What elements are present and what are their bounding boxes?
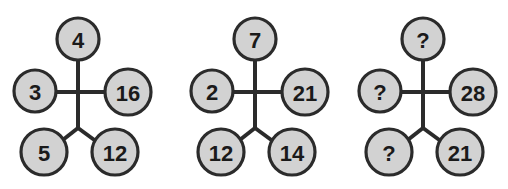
- node-bottom-left-1[interactable]: 5: [21, 129, 67, 175]
- node-bottom-right-2[interactable]: 14: [269, 129, 315, 175]
- node-left-1[interactable]: 3: [14, 70, 56, 112]
- node-label-bottom-right-3: 21: [448, 141, 472, 166]
- node-label-bottom-left-2: 12: [209, 141, 233, 166]
- node-label-right-2: 21: [293, 81, 317, 106]
- node-bottom-left-3[interactable]: ?: [366, 129, 412, 175]
- node-left-3[interactable]: ?: [359, 70, 401, 112]
- node-label-left-1: 3: [29, 80, 41, 105]
- node-right-1[interactable]: 16: [105, 69, 151, 115]
- node-bottom-left-2[interactable]: 12: [198, 129, 244, 175]
- node-label-bottom-left-1: 5: [38, 141, 50, 166]
- node-bottom-right-3[interactable]: 21: [437, 129, 483, 175]
- node-top-2[interactable]: 7: [234, 18, 276, 60]
- puzzle-figure-1: 4 3 16 5 12: [0, 0, 170, 189]
- node-label-top-1: 4: [72, 28, 85, 53]
- node-right-3[interactable]: 28: [450, 69, 496, 115]
- node-label-right-3: 28: [461, 81, 485, 106]
- node-label-bottom-right-1: 12: [103, 141, 127, 166]
- puzzle-board: 4 3 16 5 12: [0, 0, 508, 189]
- node-label-left-3: ?: [373, 80, 386, 105]
- node-top-1[interactable]: 4: [57, 18, 99, 60]
- node-bottom-right-1[interactable]: 12: [92, 129, 138, 175]
- node-right-2[interactable]: 21: [282, 69, 328, 115]
- node-label-right-1: 16: [116, 81, 140, 106]
- node-label-left-2: 2: [206, 80, 218, 105]
- node-label-bottom-left-3: ?: [382, 141, 395, 166]
- node-label-top-3: ?: [416, 28, 429, 53]
- puzzle-figure-3: ? ? 28 ? 21: [345, 0, 508, 189]
- node-left-2[interactable]: 2: [191, 70, 233, 112]
- puzzle-figure-2: 7 2 21 12 14: [177, 0, 347, 189]
- node-top-3[interactable]: ?: [402, 18, 444, 60]
- node-label-top-2: 7: [249, 28, 261, 53]
- node-label-bottom-right-2: 14: [280, 141, 305, 166]
